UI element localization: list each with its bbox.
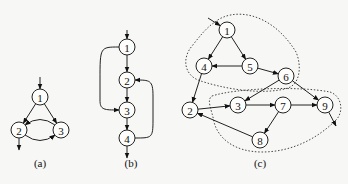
node-c-2: 2 <box>182 102 198 118</box>
node-c-4: 4 <box>196 58 212 74</box>
node-b-3: 3 <box>119 102 135 118</box>
node-label: 4 <box>124 133 130 145</box>
node-label: 5 <box>247 61 253 73</box>
node-b-1: 1 <box>119 39 135 55</box>
node-b-2: 2 <box>119 72 135 88</box>
node-label: 2 <box>124 75 130 87</box>
node-label: 1 <box>224 25 230 37</box>
node-label: 6 <box>283 71 289 83</box>
edge-c-2-3 <box>198 106 230 109</box>
node-label: 3 <box>124 105 130 117</box>
node-label: 3 <box>58 125 64 137</box>
edge-a-2-3 <box>25 135 55 141</box>
node-a-1: 1 <box>32 89 48 105</box>
edge-c-8-2 <box>197 113 252 137</box>
edge-c-1-5 <box>231 37 245 60</box>
node-c-9: 9 <box>317 97 333 113</box>
node-label: 2 <box>16 125 22 137</box>
caption-a: (a) <box>34 157 47 170</box>
node-a-2: 2 <box>11 122 27 138</box>
node-label: 4 <box>201 61 207 73</box>
node-label: 8 <box>257 135 263 147</box>
node-c-8: 8 <box>252 132 268 148</box>
node-label: 2 <box>187 105 193 117</box>
node-c-6: 6 <box>278 68 294 84</box>
regions-layer <box>186 14 341 152</box>
graph-diagrams: 1231234123456789 (a)(b)(c) <box>0 0 348 184</box>
exit-arrow-c-9 <box>329 112 336 126</box>
edge-a-3-2 <box>25 120 55 126</box>
node-c-1: 1 <box>219 22 235 38</box>
edge-b-1-3 <box>100 47 119 110</box>
node-a-3: 3 <box>53 122 69 138</box>
edge-b-4-2 <box>135 80 153 138</box>
edges-layer <box>19 18 336 158</box>
nodes-layer: 1231234123456789 <box>11 22 333 148</box>
node-c-3: 3 <box>230 97 246 113</box>
edge-c-7-8 <box>264 112 278 134</box>
edge-c-4-2 <box>192 74 201 103</box>
node-label: 3 <box>235 100 241 112</box>
node-b-4: 4 <box>119 130 135 146</box>
node-label: 7 <box>280 100 286 112</box>
node-c-7: 7 <box>275 97 291 113</box>
caption-b: (b) <box>125 157 138 170</box>
edge-c-5-6 <box>258 68 279 74</box>
node-label: 9 <box>322 100 328 112</box>
edge-c-1-4 <box>208 37 222 60</box>
captions-layer: (a)(b)(c) <box>34 157 267 170</box>
node-c-5: 5 <box>242 58 258 74</box>
edge-c-6-9 <box>292 81 318 100</box>
node-label: 1 <box>124 42 130 54</box>
node-label: 1 <box>37 92 43 104</box>
caption-c: (c) <box>254 157 267 170</box>
